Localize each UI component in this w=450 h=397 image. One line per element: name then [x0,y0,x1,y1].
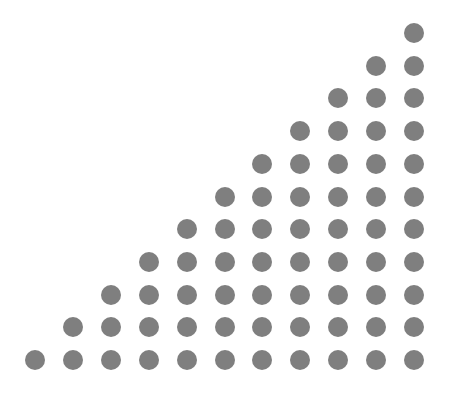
dot [139,350,159,370]
dot [366,187,386,207]
dot [215,187,235,207]
dot [139,285,159,305]
dot [328,252,348,272]
dot [177,285,197,305]
dot [404,121,424,141]
dot [290,121,310,141]
dot [252,154,272,174]
dot [290,187,310,207]
dot [63,317,83,337]
dot [252,252,272,272]
dot [290,285,310,305]
dot [404,154,424,174]
dot [366,56,386,76]
dot [215,252,235,272]
dot [215,285,235,305]
dot [252,285,272,305]
dot [177,252,197,272]
dot [215,317,235,337]
dot [404,187,424,207]
dot [139,317,159,337]
dot [101,350,121,370]
dot [404,219,424,239]
dot [404,23,424,43]
dot [290,154,310,174]
dot [328,121,348,141]
dot [404,88,424,108]
dot [177,317,197,337]
dot [215,219,235,239]
dot [366,317,386,337]
dot [328,317,348,337]
dot [252,350,272,370]
dot [328,187,348,207]
dot [404,285,424,305]
dot [404,350,424,370]
dot [328,350,348,370]
dot [252,219,272,239]
dot [290,317,310,337]
dot [63,350,83,370]
dot [366,350,386,370]
dot [366,252,386,272]
dot [366,285,386,305]
dot [252,317,272,337]
dot [328,88,348,108]
dot [101,285,121,305]
dot [328,154,348,174]
dot [215,350,235,370]
dot [139,252,159,272]
dot [366,154,386,174]
dot [290,219,310,239]
dot [177,219,197,239]
dot [101,317,121,337]
dot [404,317,424,337]
dot [366,121,386,141]
dot [290,350,310,370]
dot-triangle-figure [0,0,450,397]
dot [366,219,386,239]
dot [328,285,348,305]
dot [25,350,45,370]
dot [290,252,310,272]
dot [366,88,386,108]
dot [404,252,424,272]
dot [177,350,197,370]
dot [328,219,348,239]
dot [404,56,424,76]
dot [252,187,272,207]
